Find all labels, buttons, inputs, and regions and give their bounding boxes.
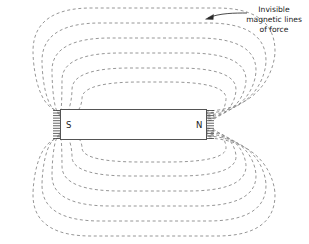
annotation-line-2: magnetic lines [240, 15, 308, 25]
magnetic-field-diagram: S N Invisible magnetic lines of force [0, 0, 309, 244]
field-line-lower-2 [42, 136, 266, 221]
annotation-label: Invisible magnetic lines of force [240, 5, 308, 36]
field-line-lower-4 [60, 132, 246, 191]
annotation-line-3: of force [240, 25, 308, 35]
field-line-upper-3 [52, 38, 256, 115]
south-pole-label: S [66, 121, 71, 130]
annotation-line-1: Invisible [240, 5, 308, 15]
north-pole-label: N [196, 121, 202, 130]
field-line-upper-4 [60, 53, 246, 117]
bar-magnet [60, 109, 207, 140]
